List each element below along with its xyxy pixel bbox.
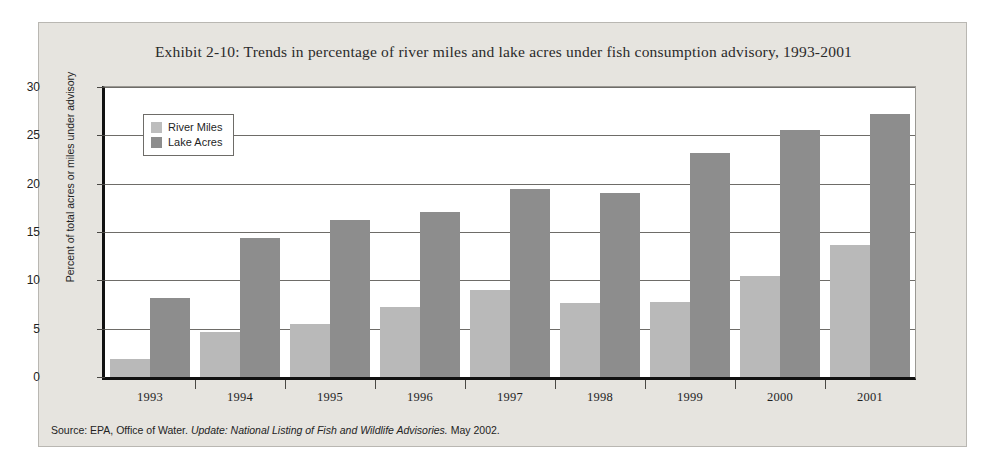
legend-item-river-miles: River Miles bbox=[151, 120, 222, 135]
bar-group bbox=[375, 87, 465, 377]
x-tick-mark bbox=[465, 380, 466, 389]
x-tick-mark bbox=[285, 380, 286, 389]
bar-group bbox=[735, 87, 825, 377]
chart-title: Exhibit 2-10: Trends in percentage of ri… bbox=[39, 43, 968, 61]
x-tick-mark bbox=[735, 380, 736, 389]
x-tick-mark bbox=[195, 380, 196, 389]
y-tick-mark bbox=[97, 87, 105, 88]
legend-label-river-miles: River Miles bbox=[168, 120, 222, 135]
y-tick-mark bbox=[97, 232, 105, 233]
x-tick-mark bbox=[555, 380, 556, 389]
y-tick-label: 30 bbox=[0, 80, 40, 94]
x-tick-mark bbox=[375, 380, 376, 389]
source-date: May 2002. bbox=[451, 424, 500, 436]
bar-group bbox=[555, 87, 645, 377]
bar-river-miles bbox=[380, 307, 420, 377]
x-tick-label: 1997 bbox=[465, 390, 555, 405]
y-tick-mark bbox=[97, 329, 105, 330]
y-tick-label: 10 bbox=[0, 273, 40, 287]
bar-lake-acres bbox=[690, 153, 730, 377]
bar-lake-acres bbox=[780, 130, 820, 377]
source-note: Source: EPA, Office of Water. Update: Na… bbox=[51, 424, 500, 436]
bar-lake-acres bbox=[600, 193, 640, 377]
bar-river-miles bbox=[470, 290, 510, 377]
y-tick-mark bbox=[97, 184, 105, 185]
x-axis-labels: 199319941995199619971998199920002001 bbox=[105, 390, 915, 405]
x-tick-label: 1996 bbox=[375, 390, 465, 405]
y-tick-mark bbox=[97, 377, 105, 378]
bar-river-miles bbox=[290, 324, 330, 377]
bar-river-miles bbox=[650, 302, 690, 377]
x-axis-ticks bbox=[105, 380, 915, 389]
x-tick-mark bbox=[645, 380, 646, 389]
x-tick-mark bbox=[825, 380, 826, 389]
bar-river-miles bbox=[110, 359, 150, 377]
y-tick-label: 25 bbox=[0, 128, 40, 142]
legend-label-lake-acres: Lake Acres bbox=[168, 135, 222, 150]
x-tick-label: 1993 bbox=[105, 390, 195, 405]
chart-legend: River Miles Lake Acres bbox=[143, 114, 234, 156]
x-tick-label: 2001 bbox=[825, 390, 915, 405]
bar-group bbox=[285, 87, 375, 377]
x-tick-label: 1995 bbox=[285, 390, 375, 405]
figure-panel: Exhibit 2-10: Trends in percentage of ri… bbox=[38, 22, 967, 447]
y-axis-title: Percent of total acres or miles under ad… bbox=[64, 47, 76, 307]
bar-group bbox=[465, 87, 555, 377]
y-tick-mark bbox=[97, 135, 105, 136]
x-tick-label: 1999 bbox=[645, 390, 735, 405]
y-tick-label: 20 bbox=[0, 177, 40, 191]
y-tick-label: 0 bbox=[0, 370, 40, 384]
y-tick-label: 15 bbox=[0, 225, 40, 239]
bar-group bbox=[645, 87, 735, 377]
bar-river-miles bbox=[560, 303, 600, 377]
bar-river-miles bbox=[200, 332, 240, 377]
y-tick-mark bbox=[97, 280, 105, 281]
x-tick-label: 1994 bbox=[195, 390, 285, 405]
bar-lake-acres bbox=[150, 298, 190, 377]
x-tick-label: 1998 bbox=[555, 390, 645, 405]
legend-swatch-lake-acres bbox=[151, 137, 162, 148]
bar-lake-acres bbox=[330, 220, 370, 377]
y-tick-label: 5 bbox=[0, 322, 40, 336]
source-title: Update: National Listing of Fish and Wil… bbox=[191, 424, 448, 436]
bar-river-miles bbox=[830, 245, 870, 377]
source-prefix: Source: EPA, Office of Water. bbox=[51, 424, 188, 436]
legend-item-lake-acres: Lake Acres bbox=[151, 135, 222, 150]
bar-lake-acres bbox=[240, 238, 280, 377]
bar-group bbox=[825, 87, 915, 377]
x-tick-label: 2000 bbox=[735, 390, 825, 405]
legend-swatch-river-miles bbox=[151, 122, 162, 133]
bar-river-miles bbox=[740, 276, 780, 377]
plot-area: 051015202530 199319941995199619971998199… bbox=[102, 86, 916, 380]
bar-lake-acres bbox=[870, 114, 910, 377]
bar-lake-acres bbox=[510, 189, 550, 377]
bar-lake-acres bbox=[420, 212, 460, 377]
